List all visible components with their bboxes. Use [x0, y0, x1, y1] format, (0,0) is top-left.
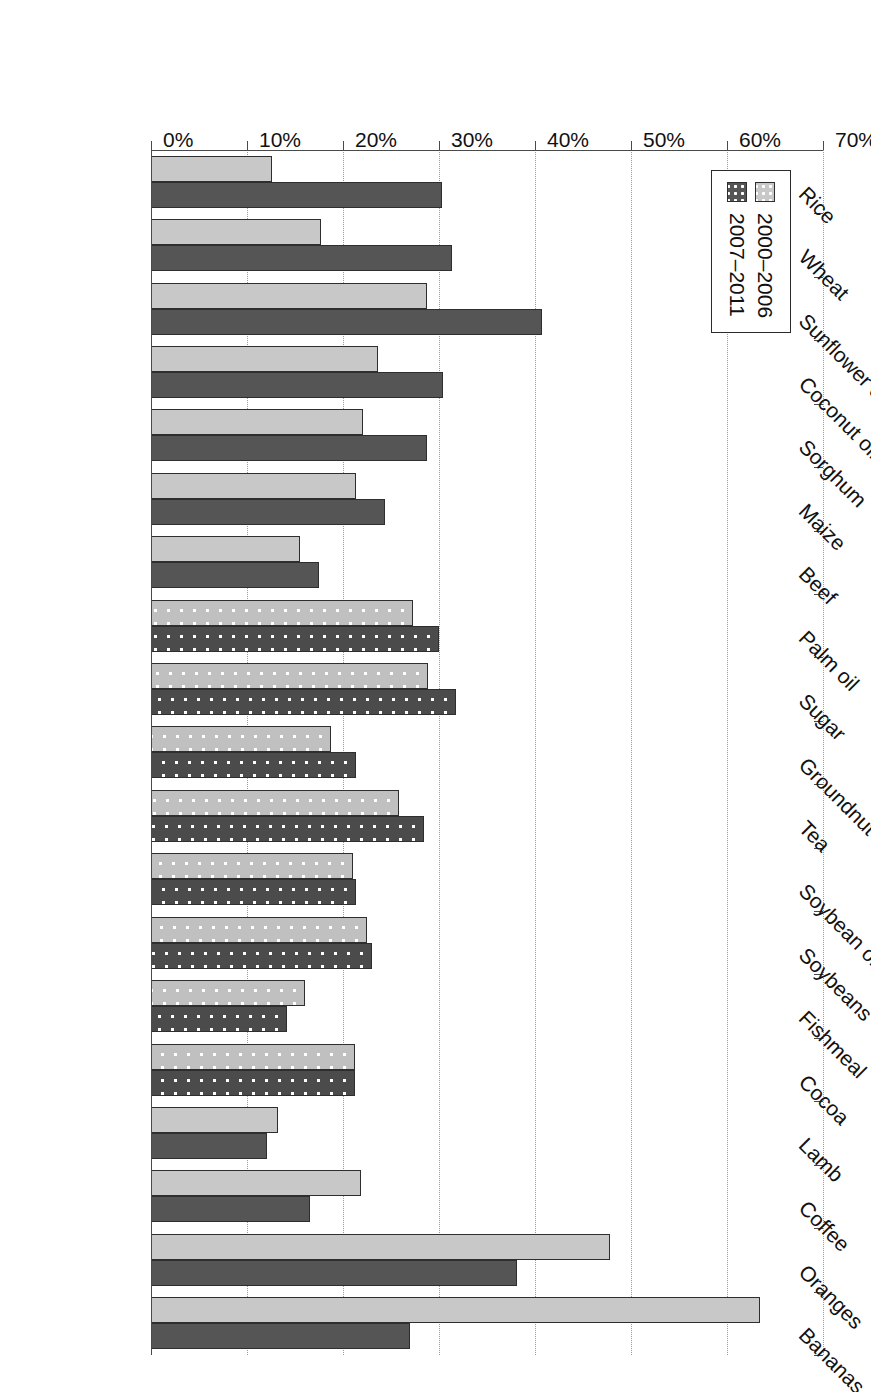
- bar-group: [151, 1044, 823, 1096]
- bar: [151, 816, 424, 842]
- legend-label: 2007–2011: [725, 213, 749, 317]
- rotated-figure-wrapper: 0%10%20%30%40%50%60%70% RiceWheatSunflow…: [0, 0, 871, 1392]
- bar: [151, 1006, 287, 1032]
- bar: [151, 790, 399, 816]
- legend-item: 2007–2011: [725, 182, 749, 318]
- bar: [151, 499, 385, 525]
- bar-group: [151, 853, 823, 905]
- bar: [151, 879, 356, 905]
- value-axis-tick: [335, 141, 344, 150]
- legend-label: 2000–2006: [753, 213, 777, 318]
- value-axis-line: [151, 150, 152, 1355]
- value-axis-spine: [151, 150, 823, 151]
- bar: [151, 752, 356, 778]
- bar: [151, 1323, 410, 1349]
- bar: [151, 156, 272, 182]
- bar: [151, 600, 413, 626]
- bar: [151, 245, 452, 271]
- bar: [151, 409, 363, 435]
- bar-group: [151, 536, 823, 588]
- bar: [151, 562, 319, 588]
- bar: [151, 182, 442, 208]
- bar-group: [151, 726, 823, 778]
- bar: [151, 1260, 517, 1286]
- bar-group: [151, 1234, 823, 1286]
- bar: [151, 1107, 278, 1133]
- bar-group: [151, 409, 823, 461]
- bar: [151, 1133, 267, 1159]
- bar: [151, 309, 542, 335]
- value-axis-tick: [623, 141, 632, 150]
- bar: [151, 1170, 361, 1196]
- value-axis-tick: [431, 141, 440, 150]
- bar-group: [151, 473, 823, 525]
- bar: [151, 1196, 310, 1222]
- value-axis-tick: [815, 141, 824, 150]
- bar: [151, 917, 367, 943]
- bar: [151, 473, 356, 499]
- value-axis-tick: [143, 141, 152, 150]
- bar-group: [151, 1297, 823, 1349]
- bar: [151, 663, 428, 689]
- bar: [151, 1044, 355, 1070]
- legend-swatch-icon: [755, 182, 775, 202]
- bar: [151, 689, 456, 715]
- bar-group: [151, 600, 823, 652]
- bar-chart-figure: 0%10%20%30%40%50%60%70% RiceWheatSunflow…: [0, 0, 871, 1392]
- bar: [151, 726, 331, 752]
- bar: [151, 1070, 355, 1096]
- bar-group: [151, 917, 823, 969]
- bar: [151, 980, 305, 1006]
- bar-group: [151, 980, 823, 1032]
- bar: [151, 1297, 760, 1323]
- legend-swatch-icon: [727, 182, 747, 202]
- bar: [151, 943, 372, 969]
- bar: [151, 346, 378, 372]
- bar: [151, 626, 439, 652]
- value-axis-tick: [527, 141, 536, 150]
- bar: [151, 219, 321, 245]
- bar: [151, 283, 427, 309]
- bar: [151, 1234, 610, 1260]
- bar: [151, 536, 300, 562]
- value-axis-tick: [719, 141, 728, 150]
- bar-group: [151, 346, 823, 398]
- bar-group: [151, 663, 823, 715]
- bar: [151, 372, 443, 398]
- legend-item: 2000–2006: [753, 182, 777, 318]
- bar-group: [151, 1170, 823, 1222]
- value-axis-tick: [239, 141, 248, 150]
- bar: [151, 853, 353, 879]
- bar-group: [151, 790, 823, 842]
- bar: [151, 435, 427, 461]
- chart-legend: 2000–2006 2007–2011: [711, 170, 791, 333]
- bar-group: [151, 1107, 823, 1159]
